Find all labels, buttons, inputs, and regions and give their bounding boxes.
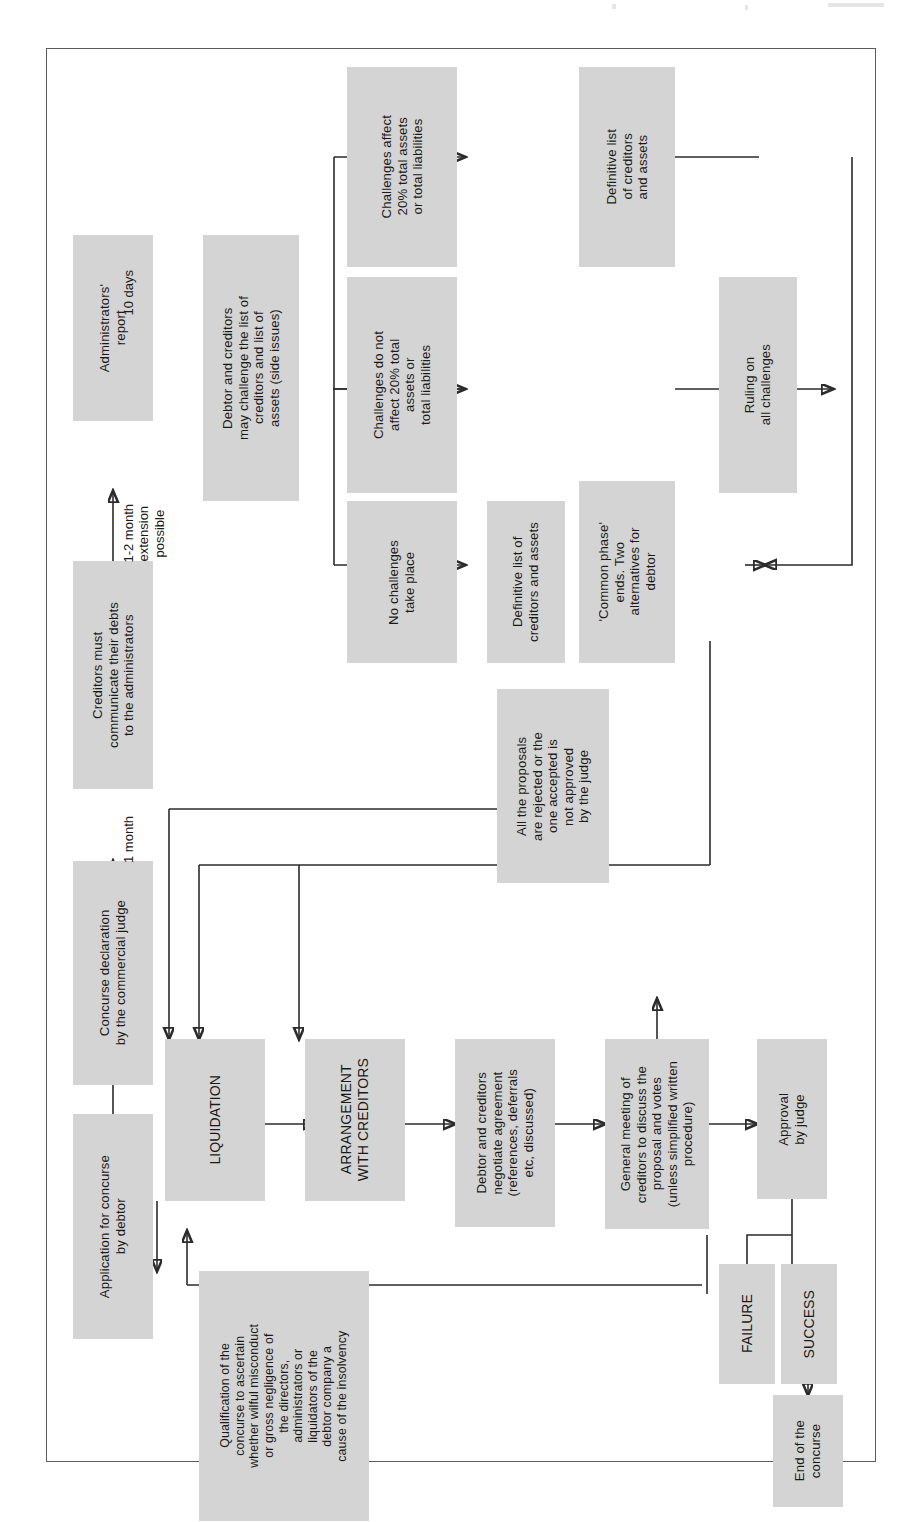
node-definitive-list-mid[interactable]: Definitive list of creditors and assets: [487, 501, 565, 663]
node-qualification-of-concurse[interactable]: Qualification of the concurse to ascerta…: [199, 1271, 369, 1521]
node-label: Application for concurse by debtor: [97, 1155, 128, 1298]
node-label: ARRANGEMENT WITH CREDITORS: [338, 1058, 371, 1181]
node-label: Debtor and creditors negotiate agreement…: [474, 1069, 536, 1197]
node-concurse-declaration[interactable]: Concurse declaration by the commercial j…: [73, 861, 153, 1085]
node-liquidation[interactable]: LIQUIDATION: [165, 1039, 265, 1201]
node-arrangement-with-creditors[interactable]: ARRANGEMENT WITH CREDITORS: [305, 1039, 405, 1201]
diagram-frame: Application for concurse by debtor Concu…: [46, 48, 876, 1462]
node-label: Debtor and creditors may challenge the l…: [220, 296, 282, 440]
node-label: Challenges do not affect 20% total asset…: [371, 331, 433, 439]
node-label: All the proposals are rejected or the on…: [514, 732, 592, 841]
node-label: End of the concurse: [792, 1420, 823, 1481]
node-challenges-do-not-affect-20pct[interactable]: Challenges do not affect 20% total asset…: [347, 277, 457, 493]
node-approval-by-judge[interactable]: Approval by judge: [757, 1039, 827, 1199]
scan-artifact: [612, 4, 616, 9]
scan-artifact: [828, 3, 884, 7]
node-failure[interactable]: FAILURE: [719, 1264, 775, 1384]
node-label: SUCCESS: [801, 1290, 818, 1358]
diagram-page: Application for concurse by debtor Concu…: [0, 0, 918, 1522]
node-success[interactable]: SUCCESS: [781, 1264, 837, 1384]
node-ruling-on-all-challenges[interactable]: Ruling on all challenges: [719, 277, 797, 493]
node-may-challenge-lists[interactable]: Debtor and creditors may challenge the l…: [203, 235, 299, 501]
node-label: Concurse declaration by the commercial j…: [97, 900, 128, 1045]
node-all-proposals-rejected[interactable]: All the proposals are rejected or the on…: [497, 689, 609, 883]
node-label: Ruling on all challenges: [742, 344, 773, 425]
node-label: Approval by judge: [776, 1093, 807, 1146]
node-label: General meeting of creditors to discuss …: [618, 1061, 696, 1207]
node-label: 'Common phase' ends. Two alternatives fo…: [596, 522, 658, 622]
edge-label-ten-days: 10 days: [121, 255, 145, 317]
node-creditors-communicate-debts[interactable]: Creditors must communicate their debts t…: [73, 561, 153, 789]
node-negotiate-agreement[interactable]: Debtor and creditors negotiate agreement…: [455, 1039, 555, 1227]
node-definitive-list-top[interactable]: Definitive list of creditors and assets: [579, 67, 675, 267]
edge-label-extension-possible: 1-2 month extension possible: [121, 489, 173, 563]
node-challenges-affect-20pct[interactable]: Challenges affect 20% total assets or to…: [347, 67, 457, 267]
node-common-phase-ends[interactable]: 'Common phase' ends. Two alternatives fo…: [579, 481, 675, 663]
node-label: Creditors must communicate their debts t…: [90, 602, 137, 748]
node-label: Definitive list of creditors and assets: [604, 129, 651, 205]
node-general-meeting-of-creditors[interactable]: General meeting of creditors to discuss …: [605, 1039, 709, 1229]
scan-artifact: [745, 5, 748, 10]
node-label: Qualification of the concurse to ascerta…: [218, 1324, 350, 1468]
connector-layer: [47, 49, 877, 1463]
node-label: LIQUIDATION: [207, 1075, 224, 1165]
node-label: No challenges take place: [386, 540, 417, 625]
node-application-for-concurse[interactable]: Application for concurse by debtor: [73, 1114, 153, 1339]
node-label: Challenges affect 20% total assets or to…: [379, 115, 426, 218]
node-no-challenges-take-place[interactable]: No challenges take place: [347, 501, 457, 663]
edge-label-one-month: 1 month: [121, 801, 145, 861]
node-label: FAILURE: [739, 1294, 756, 1353]
node-label: Definitive list of creditors and assets: [510, 522, 541, 642]
node-end-of-the-concurse[interactable]: End of the concurse: [773, 1395, 843, 1507]
